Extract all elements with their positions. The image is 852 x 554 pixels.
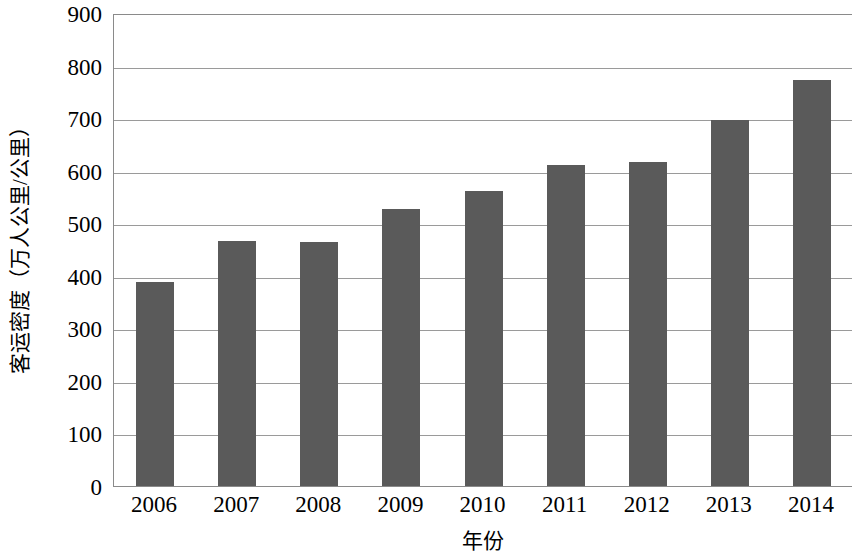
bar xyxy=(382,209,420,486)
y-axis-tick-label: 900 xyxy=(68,3,103,26)
plot-area xyxy=(113,14,852,487)
bar xyxy=(136,282,174,486)
x-axis-tick-label: 2008 xyxy=(295,492,341,517)
bar xyxy=(793,80,831,486)
x-axis-tick-label: 2011 xyxy=(542,492,587,517)
y-axis-tick-label: 200 xyxy=(68,370,103,393)
y-axis-tick-label: 800 xyxy=(68,55,103,78)
bar xyxy=(547,165,585,486)
bar xyxy=(465,191,503,486)
y-axis-tick-label: 400 xyxy=(68,265,103,288)
x-axis-tick-label: 2006 xyxy=(131,492,177,517)
x-axis-tick-labels: 200620072008200920102011201220132014 xyxy=(113,492,852,524)
x-axis-tick-label: 2012 xyxy=(624,492,670,517)
y-axis-tick-labels: 9008007006005004003002001000 xyxy=(36,0,108,500)
bar-chart: 客运密度（万人公里/公里） 90080070060050040030020010… xyxy=(0,0,852,554)
y-axis-tick-label: 300 xyxy=(68,318,103,341)
y-axis-title: 客运密度（万人公里/公里） xyxy=(0,0,36,490)
y-axis-tick-label: 100 xyxy=(68,423,103,446)
x-axis-tick-label: 2010 xyxy=(460,492,506,517)
x-axis-tick-label: 2014 xyxy=(788,492,834,517)
x-axis-title: 年份 xyxy=(113,524,852,554)
y-axis-title-text: 客运密度（万人公里/公里） xyxy=(3,116,33,374)
x-axis-tick-label: 2009 xyxy=(377,492,423,517)
bar xyxy=(711,120,749,486)
bar xyxy=(300,242,338,486)
bar xyxy=(629,162,667,486)
x-axis-tick-label: 2013 xyxy=(706,492,752,517)
y-axis-tick-label: 700 xyxy=(68,108,103,131)
y-axis-tick-label: 0 xyxy=(91,476,103,499)
bar xyxy=(218,241,256,486)
x-axis-tick-label: 2007 xyxy=(213,492,259,517)
bars-layer xyxy=(114,15,852,486)
y-axis-tick-label: 500 xyxy=(68,213,103,236)
y-axis-tick-label: 600 xyxy=(68,160,103,183)
